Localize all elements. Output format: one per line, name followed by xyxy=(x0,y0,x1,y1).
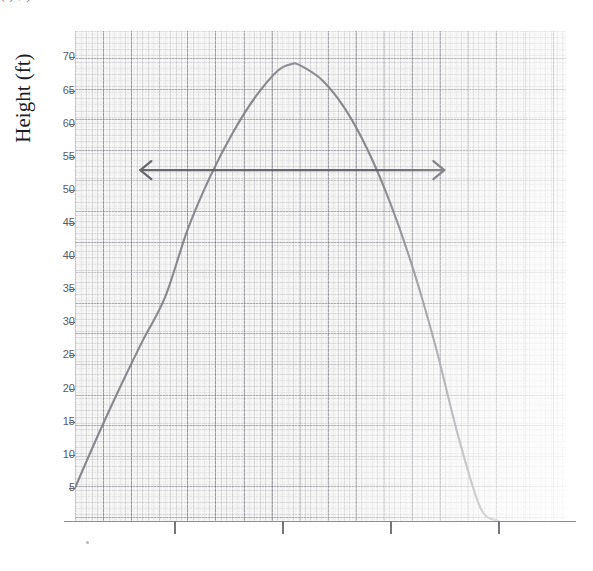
scan-fade-top-overlay xyxy=(75,31,566,521)
y-axis-title: Height (ft) xyxy=(9,0,37,203)
scan-noise-overlay xyxy=(75,31,566,521)
minor-gridlines xyxy=(75,31,566,521)
width-annotation-arrow xyxy=(75,31,566,521)
x-tick-mark xyxy=(498,521,500,534)
projectile-curve xyxy=(75,31,566,521)
x-axis-origin-dot xyxy=(86,541,89,544)
x-tick-mark xyxy=(282,521,284,534)
x-tick-mark xyxy=(390,521,392,534)
major-gridlines xyxy=(75,31,566,521)
y-axis-ticks: 706560555045403530252015105 xyxy=(39,31,75,521)
scan-fade-overlay xyxy=(75,31,566,521)
chart-figure: Height (ft) 706560555045403530252015105 xyxy=(0,0,593,571)
plot-area xyxy=(75,31,566,521)
x-tick-mark xyxy=(174,521,176,534)
